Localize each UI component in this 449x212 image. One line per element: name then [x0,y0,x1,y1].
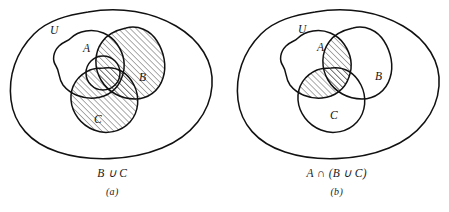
panel-b: U A B C A ∩ (B ∪ C) (b) [225,0,449,212]
venn-figure: U A B C B ∪ C (a) [0,0,449,212]
panel-b-diagram: U A B C [225,0,449,165]
panel-a: U A B C B ∪ C (a) [0,0,225,212]
caption-label-a: (a) [0,186,225,197]
set-label-c-panel-a: C [94,113,102,125]
universe-label-a: U [50,24,59,36]
caption-expression-b: A ∩ (B ∪ C) [225,166,449,180]
set-label-c-panel-b: C [330,109,338,121]
set-label-a-panel-b: A [316,41,325,53]
universe-label-b: U [298,23,307,35]
panel-a-diagram: U A B C [0,0,225,165]
set-label-b-panel-a: B [139,71,146,83]
caption-expression-a: B ∪ C [0,166,225,180]
set-label-b-panel-b: B [375,70,382,82]
set-label-a-panel-a: A [82,42,91,54]
caption-label-b: (b) [225,186,449,197]
